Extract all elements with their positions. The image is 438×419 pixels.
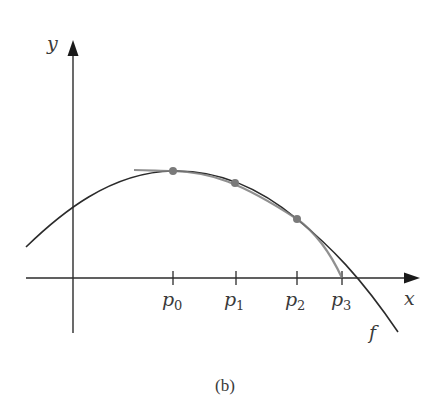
svg-text:3: 3 — [343, 298, 351, 313]
point-label-p1: p 1 — [224, 288, 244, 313]
svg-text:p: p — [162, 288, 174, 310]
point-p1 — [231, 179, 239, 187]
x-axis-label: x — [404, 287, 415, 309]
svg-text:2: 2 — [297, 298, 305, 313]
approximating-curve — [134, 170, 342, 278]
y-axis-arrow-icon — [68, 40, 79, 56]
svg-text:p: p — [285, 288, 297, 310]
x-axis-arrow-icon — [404, 273, 420, 284]
figure-caption: (b) — [215, 376, 235, 395]
y-axis-label: y — [46, 32, 58, 54]
point-label-p3: p 3 — [331, 288, 351, 313]
point-label-p0: p 0 — [162, 288, 182, 313]
svg-text:p: p — [224, 288, 236, 310]
point-p2 — [293, 215, 301, 223]
point-p0 — [169, 167, 177, 175]
svg-text:p: p — [331, 288, 343, 310]
function-label: f — [367, 321, 379, 343]
svg-text:0: 0 — [174, 298, 182, 313]
point-label-p2: p 2 — [285, 288, 305, 313]
svg-text:1: 1 — [236, 298, 244, 313]
figure-canvas: y x f p 0 p 1 p 2 p 3 (b) — [0, 0, 438, 419]
